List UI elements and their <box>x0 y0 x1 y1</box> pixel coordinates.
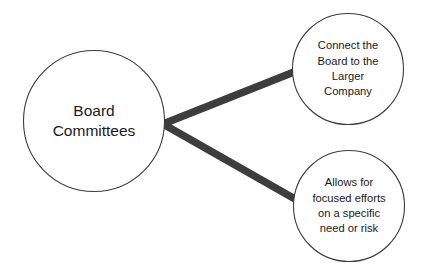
diagram-graphics <box>0 0 426 274</box>
connector-to-bottom-branch <box>163 124 295 199</box>
node-circle-connect-board-to-larger-company[interactable] <box>293 14 404 125</box>
node-circle-allows-for-focused-efforts[interactable] <box>294 151 405 262</box>
diagram-canvas: Board Committees Connect the Board to th… <box>0 0 426 274</box>
node-circle-board-committees[interactable] <box>24 51 165 192</box>
connector-to-top-branch <box>163 72 294 124</box>
